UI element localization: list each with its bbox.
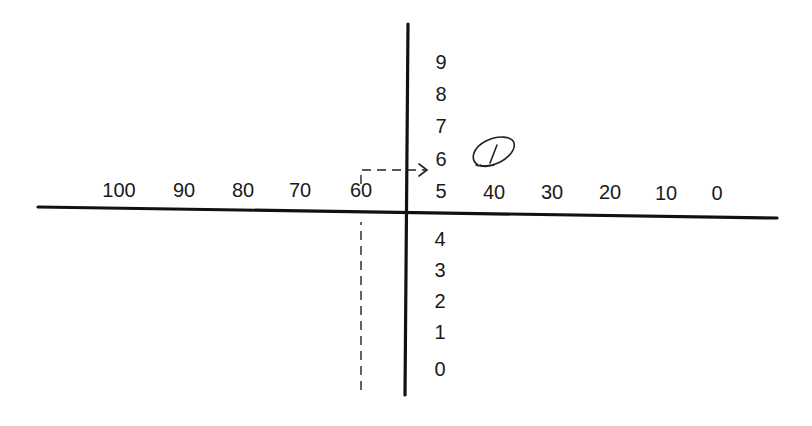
h-label: 40 xyxy=(483,181,505,203)
h-label: 100 xyxy=(102,179,135,201)
v-label: 6 xyxy=(435,148,446,170)
vertical-axis xyxy=(405,24,408,395)
h-label: 20 xyxy=(599,181,621,203)
v-label: 9 xyxy=(435,51,446,73)
h-label: 0 xyxy=(711,182,722,204)
vertical-scale-labels-above: 9 8 7 6 5 xyxy=(435,51,446,202)
h-label: 80 xyxy=(232,179,254,201)
v-label: 1 xyxy=(434,321,445,343)
vertical-scale-labels-below: 4 3 2 1 0 xyxy=(434,228,445,380)
v-label: 2 xyxy=(434,290,445,312)
v-label: 7 xyxy=(435,115,446,137)
v-label: 0 xyxy=(434,358,445,380)
horizontal-scale-labels: 100 90 80 70 60 40 30 20 10 0 xyxy=(102,179,722,204)
circled-annotation: 1 xyxy=(473,137,514,167)
nomogram-diagram: 100 90 80 70 60 40 30 20 10 0 9 8 7 6 5 … xyxy=(0,0,812,426)
v-label: 5 xyxy=(435,180,446,202)
h-label: 70 xyxy=(289,179,311,201)
annotation-stroke xyxy=(490,145,497,163)
h-label: 30 xyxy=(541,181,563,203)
annotation-text: 1 xyxy=(495,157,496,158)
v-label: 4 xyxy=(434,228,445,250)
v-label: 8 xyxy=(435,83,446,105)
h-label: 90 xyxy=(173,179,195,201)
h-label: 10 xyxy=(655,182,677,204)
v-label: 3 xyxy=(434,259,445,281)
